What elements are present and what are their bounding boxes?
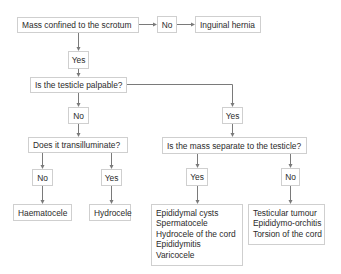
node-answer-yes: Yes (68, 51, 89, 69)
flowchart: Mass confined to the scrotum No Inguinal… (0, 0, 341, 274)
node-mass-separate-to-testicle: Is the mass separate to the testicle? (162, 137, 307, 154)
list-item: Epididymo-orchitis (253, 218, 320, 228)
list-item: Epididymitis (156, 239, 238, 249)
node-hydrocele: Hydrocele (89, 204, 131, 221)
node-haematocele: Haematocele (13, 204, 72, 221)
list-item: Varicocele (156, 250, 238, 260)
node-not-separate-diagnoses-list: Testicular tumour Epididymo-orchitis Tor… (248, 204, 325, 245)
arrow-q2-to-yes (127, 85, 233, 105)
node-answer-yes: Yes (101, 169, 122, 186)
node-separate-diagnoses-list: Epididymal cysts Spermatocele Hydrocele … (151, 204, 243, 266)
node-answer-yes: Yes (222, 107, 243, 124)
list-item: Testicular tumour (253, 208, 320, 218)
list-item: Spermatocele (156, 218, 238, 228)
node-answer-no: No (32, 169, 53, 186)
node-inguinal-hernia: Inguinal hernia (195, 16, 261, 33)
list-item: Hydrocele of the cord (156, 229, 238, 239)
node-transilluminate: Does it transilluminate? (28, 137, 128, 153)
node-testicle-palpable: Is the testicle palpable? (30, 77, 127, 93)
node-answer-no: No (68, 107, 89, 124)
node-answer-yes: Yes (186, 168, 208, 186)
list-item: Torsion of the cord (253, 229, 320, 239)
node-answer-no: No (157, 16, 177, 33)
node-mass-confined-to-scrotum: Mass confined to the scrotum (17, 17, 139, 33)
list-item: Epididymal cysts (156, 208, 238, 218)
node-answer-no: No (281, 168, 300, 186)
